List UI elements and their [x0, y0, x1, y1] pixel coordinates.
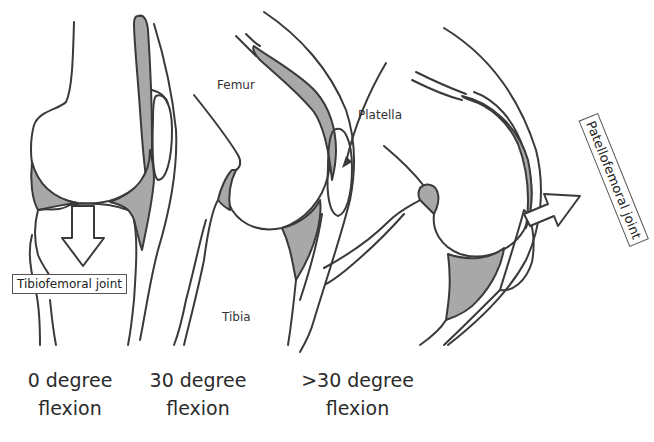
tibia-posterior-gt30 [324, 200, 420, 268]
caption-panel-30: 30 degree flexion [133, 366, 263, 422]
femoral-cartilage-gt30 [462, 96, 532, 228]
femur-label: Femur [217, 78, 255, 92]
patella-label: Platella [358, 108, 402, 122]
tibia-right-0 [128, 220, 136, 345]
fibula-30 [174, 220, 206, 345]
meniscus-left-0 [31, 162, 76, 210]
caption-panel-30-line1: 30 degree [133, 366, 263, 394]
caption-panel-gt30-line2: flexion [285, 394, 430, 422]
condyle-cartilage-gt30 [419, 185, 439, 214]
caption-panel-gt30: >30 degree flexion [285, 366, 430, 422]
panel-gt30-degree-drawing [324, 28, 541, 345]
femur-shaft-30 [194, 95, 240, 170]
patella-0 [153, 95, 172, 180]
patella-pointer-arrowhead [342, 156, 352, 168]
tibia-label: Tibia [222, 310, 251, 324]
tibiofemoral-arrow-icon [62, 206, 104, 266]
meniscus-anterior-gt30 [446, 248, 504, 320]
panel-30-degree-drawing [174, 12, 354, 352]
femur-outline-0 [31, 22, 151, 203]
meniscus-anterior-30 [282, 200, 320, 280]
tibiofemoral-joint-callout: Tibiofemoral joint [12, 274, 127, 294]
quad-tendon-gt30 [412, 72, 466, 100]
caption-panel-0-line2: flexion [10, 394, 130, 422]
meniscus-right-0 [110, 150, 154, 250]
caption-panel-30-line2: flexion [133, 394, 263, 422]
caption-panel-gt30-line1: >30 degree [285, 366, 430, 394]
tibia-posterior2-gt30 [326, 214, 404, 284]
caption-panel-0-line1: 0 degree [10, 366, 130, 394]
femur-shaft-gt30 [384, 146, 424, 186]
tibia-left-0 [35, 210, 52, 280]
meniscus-posterior-30 [218, 170, 236, 210]
tibia-posterior-30 [184, 200, 218, 345]
tibia-anterior-30 [288, 280, 296, 345]
femoral-cartilage-30 [253, 46, 336, 180]
panel-0-degree-drawing [30, 16, 176, 345]
caption-panel-0: 0 degree flexion [10, 366, 130, 422]
